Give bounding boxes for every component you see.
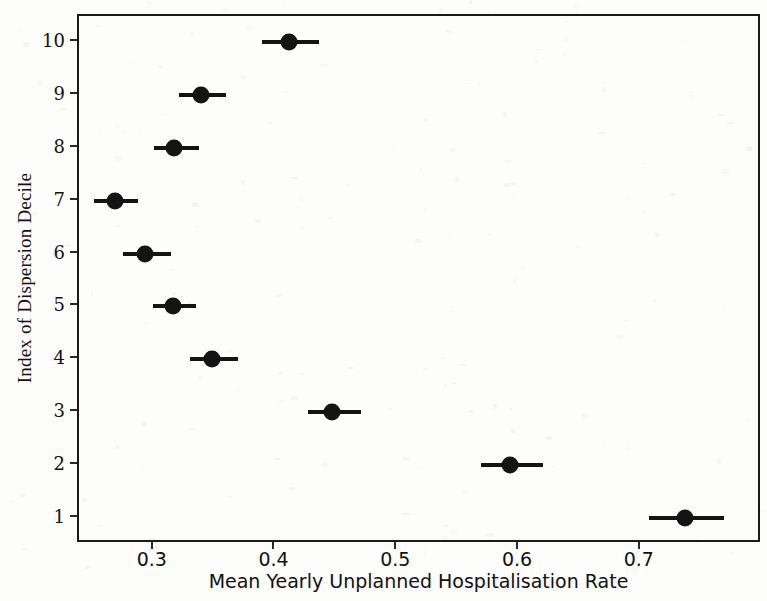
x-tick-mark [394, 542, 396, 549]
y-tick-label: 9 [21, 83, 65, 104]
plot-area [77, 14, 760, 542]
data-point [280, 34, 297, 51]
data-point [166, 140, 183, 157]
texture-speck [222, 8, 229, 13]
x-tick-label: 0.3 [117, 548, 187, 570]
x-tick-mark [638, 542, 640, 549]
data-point [106, 192, 123, 209]
x-tick-label: 0.7 [604, 548, 674, 570]
y-tick-mark [70, 356, 77, 358]
y-tick-label: 2 [21, 452, 65, 473]
y-tick-label: 8 [21, 136, 65, 157]
texture-speck [146, 1, 152, 5]
data-point [502, 456, 519, 473]
y-tick-label: 3 [21, 400, 65, 421]
y-tick-mark [70, 39, 77, 41]
data-point [137, 245, 154, 262]
plot-inner [79, 16, 758, 540]
texture-speck [85, 565, 90, 569]
y-tick-mark [70, 198, 77, 200]
data-point [676, 509, 693, 526]
data-point [193, 87, 210, 104]
texture-speck [22, 548, 28, 552]
y-tick-mark [70, 145, 77, 147]
texture-speck [439, 8, 443, 12]
texture-speck [301, 6, 304, 7]
x-tick-label: 0.4 [238, 548, 308, 570]
texture-speck [469, 0, 472, 4]
y-tick-label: 4 [21, 347, 65, 368]
figure-canvas: Index of Dispersion Decile 12345678910 0… [0, 0, 767, 601]
y-tick-label: 6 [21, 241, 65, 262]
texture-speck [729, 552, 736, 555]
y-tick-mark [70, 462, 77, 464]
data-point [323, 404, 340, 421]
texture-speck [574, 6, 578, 10]
x-tick-mark [516, 542, 518, 549]
texture-speck [64, 244, 70, 247]
y-tick-mark [70, 251, 77, 253]
y-tick-label: 10 [21, 30, 65, 51]
texture-speck [231, 6, 235, 8]
x-tick-label: 0.6 [482, 548, 552, 570]
data-point [204, 351, 221, 368]
x-axis-label: Mean Yearly Unplanned Hospitalisation Ra… [77, 570, 760, 592]
y-tick-label: 1 [21, 505, 65, 526]
y-tick-label: 7 [21, 188, 65, 209]
x-tick-label: 0.5 [360, 548, 430, 570]
y-tick-mark [70, 92, 77, 94]
texture-speck [284, 2, 286, 5]
data-point [165, 298, 182, 315]
y-tick-mark [70, 515, 77, 517]
y-tick-mark [70, 303, 77, 305]
x-tick-mark [151, 542, 153, 549]
x-tick-mark [272, 542, 274, 549]
y-tick-mark [70, 409, 77, 411]
texture-speck [60, 107, 66, 112]
y-tick-label: 5 [21, 294, 65, 315]
texture-speck [74, 129, 75, 133]
